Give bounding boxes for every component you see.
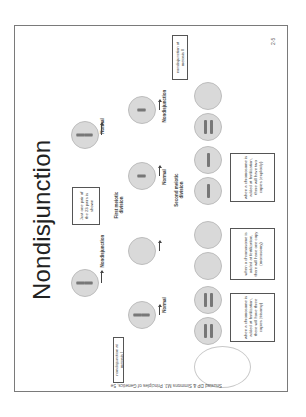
label-nondisjunction-m1: Nondisjunction	[100, 231, 105, 271]
arrow	[159, 166, 160, 176]
outcome-box-euploidy: when a chromosome is added at fertilizat…	[230, 153, 275, 202]
label-second-division: Second meiotic division	[174, 168, 184, 212]
slide-title: Nondisjunction	[28, 140, 56, 300]
gamete-7	[194, 113, 222, 141]
arrow	[101, 271, 102, 283]
pen-doodle	[194, 346, 251, 388]
gamete-6	[194, 146, 222, 174]
label-row2-nondisjunction: Nondisjunction	[162, 86, 167, 126]
label-row2-normal-a: Normal	[162, 290, 167, 320]
gamete-3	[194, 252, 222, 280]
m1-cell-3	[128, 162, 156, 190]
scenario-box-meiosis2: nondisjunction at meiosis II	[172, 35, 188, 80]
gamete-4	[194, 221, 222, 249]
outcome-box-trisomy: when a chromosome is added at fertilizat…	[230, 293, 275, 342]
note-box: Just one pair of the 23 pairs is shown	[72, 187, 100, 225]
arrow	[159, 241, 160, 251]
parent-cell-right	[71, 121, 99, 149]
page-number: 2-5	[270, 38, 276, 45]
arrow	[159, 305, 160, 315]
label-row2-normal-b: Normal	[162, 162, 167, 192]
parent-cell-left	[71, 269, 99, 297]
label-first-division: First meiotic division	[114, 183, 124, 227]
gamete-5	[194, 177, 222, 205]
arrow	[101, 123, 102, 135]
m1-cell-1	[128, 301, 156, 329]
m1-cell-2	[128, 237, 156, 265]
slide: Nondisjunction 2-5 Just one pair of the …	[14, 25, 288, 392]
scenario-box-meiosis1: nondisjunction at meiosis I	[113, 337, 124, 383]
outcome-box-monosomy: when a chromosome is added at fertilizat…	[230, 228, 275, 280]
m1-cell-4	[128, 96, 156, 124]
gamete-1	[194, 317, 222, 345]
credit-line: Snustad DP & Simmons MJ. Principles of G…	[72, 383, 222, 388]
gamete-2	[194, 286, 222, 314]
gamete-8	[194, 82, 222, 110]
arrow	[159, 100, 160, 110]
